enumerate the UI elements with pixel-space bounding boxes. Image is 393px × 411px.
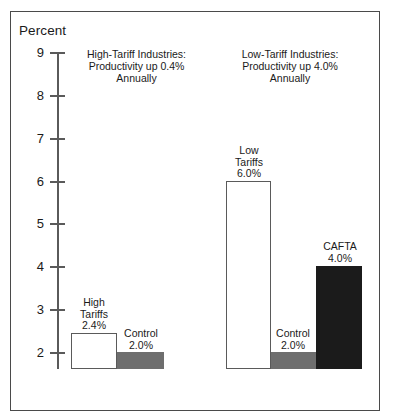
- y-tick-mark-5: [50, 223, 65, 225]
- y-tick-label-5: 5: [14, 216, 44, 231]
- bar-label-high-tariffs: High Tariffs 2.4%: [69, 297, 119, 332]
- y-axis-line: [57, 52, 59, 369]
- bar-label-low-tariffs: Low Tariffs 6.0%: [224, 145, 274, 180]
- y-tick-mark-2: [50, 352, 65, 354]
- bar-control-left: [117, 352, 164, 369]
- y-tick-mark-4: [50, 266, 65, 268]
- y-tick-label-6: 6: [14, 174, 44, 189]
- y-tick-mark-3: [50, 309, 65, 311]
- bar-high-tariffs: [71, 333, 117, 369]
- bar-label-control-right: Control 2.0%: [268, 328, 318, 351]
- bar-low-tariffs: [226, 181, 271, 369]
- y-axis-title: Percent: [19, 23, 66, 38]
- y-tick-label-4: 4: [14, 259, 44, 274]
- bar-control-right: [271, 352, 316, 369]
- y-tick-mark-6: [50, 181, 65, 183]
- group-caption-low-tariff: Low-Tariff Industries: Productivity up 4…: [227, 48, 353, 85]
- bar-label-control-left: Control 2.0%: [116, 328, 166, 351]
- y-tick-label-9: 9: [14, 45, 44, 60]
- y-tick-label-8: 8: [14, 88, 44, 103]
- y-tick-mark-8: [50, 95, 65, 97]
- bar-label-cafta: CAFTA 4.0%: [314, 241, 366, 264]
- group-caption-high-tariff: High-Tariff Industries: Productivity up …: [79, 48, 194, 85]
- y-tick-mark-9: [50, 52, 65, 54]
- y-tick-label-2: 2: [14, 345, 44, 360]
- bar-cafta: [316, 266, 362, 369]
- y-tick-label-7: 7: [14, 131, 44, 146]
- y-tick-label-3: 3: [14, 302, 44, 317]
- y-tick-mark-7: [50, 138, 65, 140]
